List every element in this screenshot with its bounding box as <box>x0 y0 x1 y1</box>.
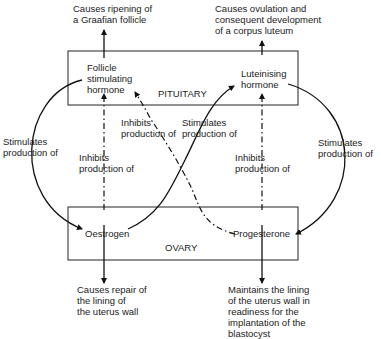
relation-lh-stimulates-progesterone: Stimulates production of <box>318 137 373 159</box>
oestrogen-label: Oestrogen <box>85 228 129 239</box>
relation-progesterone-inhibits-fsh: Inhibits production of <box>121 117 176 139</box>
relation-oestrogen-stimulates-lh: Stimulates production of <box>182 117 237 139</box>
oestrogen-effect-text: Causes repair of the lining of the uteru… <box>77 284 147 317</box>
progesterone-label: Progesterone <box>233 228 290 239</box>
relation-fsh-stimulates-oestrogen: Stimulates production of <box>3 136 58 158</box>
fsh-label: Follicle stimulating hormone <box>87 62 132 95</box>
lh-label: Luteinising hormone <box>241 68 286 90</box>
pituitary-label: PITUITARY <box>158 88 207 99</box>
relation-oestrogen-inhibits-fsh: Inhibits production of <box>79 152 134 174</box>
fsh-effect-text: Causes ripening of a Graafian follicle <box>73 3 152 25</box>
relation-progesterone-inhibits-lh: Inhibits production of <box>235 152 290 174</box>
ovary-label: OVARY <box>165 242 197 253</box>
progesterone-effect-text: Maintains the lining of the uterus wall … <box>228 284 310 339</box>
lh-effect-text: Causes ovulation and consequent developm… <box>215 3 321 36</box>
